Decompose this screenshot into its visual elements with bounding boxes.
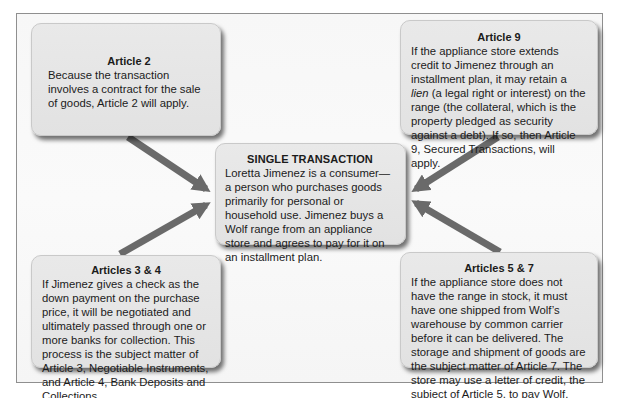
article-9-box: Article 9 If the appliance store extends… [400,20,598,135]
single-transaction-text: Loretta Jimenez is a consumer—a person w… [225,166,395,264]
articles-3-4-box: Articles 3 & 4 If Jimenez gives a check … [31,255,221,368]
single-transaction-title: SINGLE TRANSACTION [225,152,395,166]
article-9-title: Article 9 [411,30,587,44]
arrow-articles57-to-center [416,203,500,252]
articles-5-7-title: Articles 5 & 7 [411,261,587,275]
arrow-article2-to-center [128,137,206,189]
articles-5-7-box: Articles 5 & 7 If the appliance store do… [400,252,598,368]
article-2-box: Article 2 Because the transaction involv… [31,23,221,136]
article-9-text-part: (a legal right or interest) on the range… [411,87,586,169]
article-2-text: Because the transaction involves a contr… [48,68,210,110]
articles-3-4-title: Articles 3 & 4 [42,263,210,277]
articles-5-7-text: If the appliance store does not have the… [411,275,587,398]
article-2-title: Article 2 [48,54,210,68]
articles-3-4-text: If Jimenez gives a check as the down pay… [42,277,210,398]
single-transaction-box: SINGLE TRANSACTION Loretta Jimenez is a … [215,143,406,245]
article-9-text-part: If the appliance store extends credit to… [411,45,567,85]
article-9-text: If the appliance store extends credit to… [411,44,587,170]
arrow-articles34-to-center [120,205,206,254]
lien-term: lien [411,87,429,99]
